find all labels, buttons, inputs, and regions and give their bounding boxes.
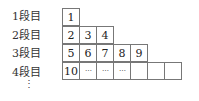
grid-cell: 6: [79, 44, 97, 62]
row-label-3: 3段目: [12, 45, 41, 63]
grid-cell-empty: [164, 62, 182, 80]
grid-cell: 1: [62, 8, 80, 26]
grid-cell-ellipsis: ⋯: [113, 62, 131, 80]
row-label-2: 2段目: [12, 27, 41, 45]
grid-row-4: 10 ⋯ ⋯ ⋯: [62, 62, 182, 80]
grid-cell: 7: [96, 44, 114, 62]
grid-cell-ellipsis: ⋯: [79, 62, 97, 80]
grid-cell-empty: [130, 62, 148, 80]
grid-cell-empty: [147, 62, 165, 80]
grid-cell: 4: [96, 26, 114, 44]
grid-row-2: 2 3 4: [62, 26, 114, 44]
grid-cell: 10: [62, 62, 80, 80]
grid-row-3: 5 6 7 8 9: [62, 44, 148, 62]
row-label-1: 1段目: [12, 8, 41, 26]
grid-cell: 3: [79, 26, 97, 44]
grid-row-1: 1: [62, 8, 80, 26]
grid-cell: 2: [62, 26, 80, 44]
grid-cell-ellipsis: ⋯: [96, 62, 114, 80]
grid-cell: 9: [130, 44, 148, 62]
vertical-ellipsis-icon: ⋮: [24, 82, 34, 86]
grid-cell: 5: [62, 44, 80, 62]
grid-cell: 8: [113, 44, 131, 62]
